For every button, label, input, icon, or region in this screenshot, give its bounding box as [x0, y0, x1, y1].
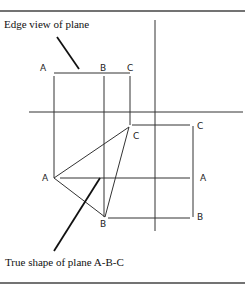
top-label-b: B: [100, 63, 106, 73]
edge-view-leader-line: [57, 37, 79, 69]
triangle-label-c: C: [133, 131, 139, 141]
right-label-a: A: [200, 173, 207, 183]
edge-view-caption: Edge view of plane: [4, 18, 89, 30]
top-label-c: C: [127, 63, 133, 73]
triangle-label-b: B: [100, 219, 106, 229]
triangle-label-a: A: [42, 173, 49, 183]
true-shape-triangle: [54, 127, 129, 217]
right-label-b: B: [197, 212, 203, 222]
right-label-c: C: [197, 121, 203, 131]
true-shape-caption: True shape of plane A-B-C: [5, 256, 124, 268]
orthographic-projection-diagram: Edge view of plane A B C C A B A B C Tru…: [0, 0, 245, 288]
top-label-a: A: [40, 63, 47, 73]
true-shape-leader-line: [54, 178, 100, 251]
